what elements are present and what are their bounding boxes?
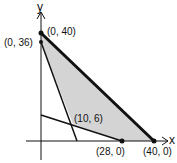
vertex-0-40 [39,31,44,36]
feasible-region-diagram: y x (0, 40) (0, 36) (10, 6) (28, 0) (40,… [0,0,177,163]
label-0-40: (0, 40) [47,26,76,37]
x-axis-label: x [169,133,175,147]
vertex-40-0 [152,139,157,144]
vertex-0-36 [39,40,43,44]
label-40-0: (40, 0) [143,146,172,157]
label-0-36: (0, 36) [4,37,33,48]
y-axis-label: y [37,0,43,14]
vertex-28-0 [120,139,125,144]
label-28-0: (28, 0) [96,146,125,157]
label-10-6: (10, 6) [74,113,103,124]
